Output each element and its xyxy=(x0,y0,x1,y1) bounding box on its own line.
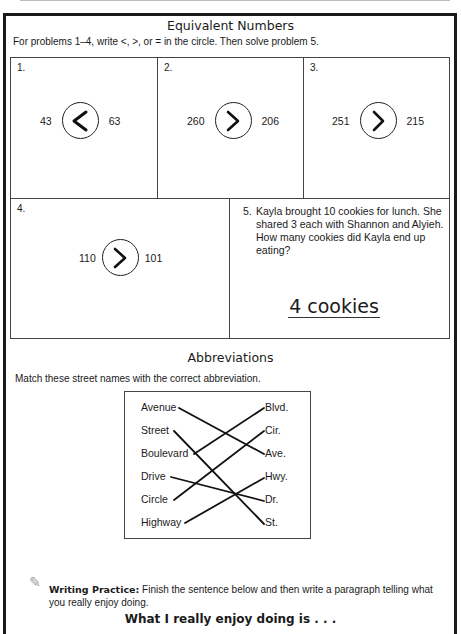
left-value: 43 xyxy=(40,115,52,127)
word-problem: 5. Kayla brought 10 cookies for lunch. S… xyxy=(243,205,448,257)
equivalent-instructions: For problems 1–4, write <, >, or = in th… xyxy=(13,36,319,47)
greater-than-icon xyxy=(222,109,244,133)
match-line xyxy=(185,478,264,523)
word-problem-text: Kayla brought 10 cookies for lunch. She … xyxy=(243,205,448,257)
problem-cell-2: 2. 260 206 xyxy=(158,58,304,199)
comparison: 110 101 xyxy=(79,239,162,276)
right-value: 63 xyxy=(109,115,121,127)
section-title-abbreviations: Abbreviations xyxy=(0,350,461,365)
problem-number: 1. xyxy=(17,62,25,73)
left-value: 260 xyxy=(187,115,205,127)
match-line xyxy=(179,408,264,454)
writing-practice: Writing Practice: Finish the sentence be… xyxy=(49,583,449,609)
left-value: 110 xyxy=(79,252,96,264)
answer-circle[interactable] xyxy=(102,239,139,276)
page-top-edge xyxy=(20,0,450,1)
problem-number: 3. xyxy=(310,62,318,73)
right-value: 215 xyxy=(407,115,425,127)
answer-circle[interactable] xyxy=(215,102,252,139)
handwritten-answer[interactable]: 4 cookies xyxy=(288,295,380,318)
writing-prompt: What I really enjoy doing is . . . xyxy=(0,612,461,626)
problem-cell-1: 1. 43 63 xyxy=(11,58,158,199)
match-line xyxy=(174,431,264,524)
problem-number: 4. xyxy=(17,203,25,214)
right-value: 206 xyxy=(262,115,280,127)
left-value: 251 xyxy=(332,115,350,127)
writing-practice-label: Writing Practice: xyxy=(49,584,139,595)
abbreviations-instructions: Match these street names with the correc… xyxy=(15,373,261,384)
greater-than-icon xyxy=(367,109,389,133)
match-line xyxy=(194,408,264,454)
problem-number: 2. xyxy=(164,62,172,73)
match-line xyxy=(171,477,264,501)
comparison: 260 206 xyxy=(187,102,279,139)
comparison: 43 63 xyxy=(40,102,120,139)
matching-box: Avenue Street Boulevard Drive Circle Hig… xyxy=(124,391,311,539)
greater-than-icon xyxy=(109,246,131,270)
problems-grid: 1. 43 63 2. 260 206 3. 251 215 4 xyxy=(10,57,450,339)
comparison: 251 215 xyxy=(332,102,424,139)
right-value: 101 xyxy=(145,252,163,264)
problem-number: 5. xyxy=(243,205,252,218)
matching-lines xyxy=(125,392,312,540)
answer-circle[interactable] xyxy=(62,102,99,139)
pencil-icon: ✎ xyxy=(29,574,41,590)
problem-cell-4: 4. 110 101 xyxy=(11,199,230,339)
less-than-icon xyxy=(69,109,91,133)
answer-circle[interactable] xyxy=(360,102,397,139)
section-title-equivalent: Equivalent Numbers xyxy=(0,18,461,33)
problem-cell-3: 3. 251 215 xyxy=(304,58,450,199)
problem-cell-5: 5. Kayla brought 10 cookies for lunch. S… xyxy=(230,199,450,339)
